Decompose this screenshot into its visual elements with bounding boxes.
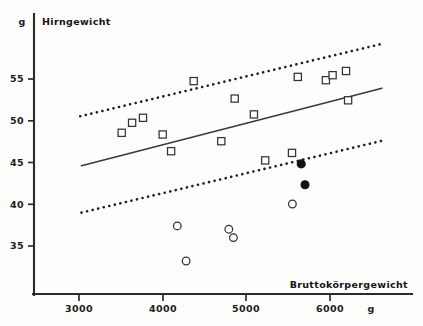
y-axis-unit-label: g bbox=[19, 16, 26, 27]
data-point-square bbox=[288, 149, 295, 156]
plot-area: 55 50 45 40 35 3000 4000 5000 6000 g g H… bbox=[0, 0, 423, 326]
data-point-circle-filled bbox=[301, 181, 309, 189]
data-point-square bbox=[262, 157, 269, 164]
data-point-circle-open bbox=[230, 234, 238, 242]
y-axis-title: Hirngewicht bbox=[42, 16, 111, 27]
y-tick-label-55: 55 bbox=[10, 73, 24, 84]
data-point-square bbox=[159, 131, 166, 138]
x-axis-title: Bruttokörpergewicht bbox=[290, 279, 408, 290]
data-point-circle-filled bbox=[297, 160, 305, 168]
x-tick-label-4000: 4000 bbox=[149, 303, 177, 314]
data-point-square bbox=[129, 119, 136, 126]
scatter-chart-figure: 55 50 45 40 35 3000 4000 5000 6000 g g H… bbox=[0, 0, 423, 326]
data-point-square bbox=[118, 129, 125, 136]
data-point-square bbox=[190, 78, 197, 85]
y-tick-label-40: 40 bbox=[10, 199, 24, 210]
data-point-circle-open bbox=[225, 225, 233, 233]
upper-limit-line bbox=[80, 44, 382, 117]
filled-circle-markers bbox=[297, 160, 309, 189]
lower-limit-line bbox=[82, 141, 383, 213]
x-tick-label-6000: 6000 bbox=[316, 303, 344, 314]
data-point-square bbox=[139, 114, 146, 121]
data-point-square bbox=[250, 111, 257, 118]
y-axis-tick-labels: 55 50 45 40 35 bbox=[10, 73, 24, 251]
data-point-square bbox=[218, 138, 225, 145]
data-point-circle-open bbox=[174, 222, 182, 230]
y-tick-label-45: 45 bbox=[10, 157, 24, 168]
data-point-square bbox=[168, 148, 175, 155]
data-point-circle-open bbox=[289, 200, 297, 208]
open-square-markers bbox=[118, 67, 352, 164]
x-tick-label-3000: 3000 bbox=[65, 303, 93, 314]
x-axis-tick-labels: 3000 4000 5000 6000 g bbox=[65, 303, 374, 314]
y-tick-label-35: 35 bbox=[10, 240, 24, 251]
data-point-square bbox=[231, 95, 238, 102]
y-tick-label-50: 50 bbox=[10, 115, 24, 126]
data-point-square bbox=[294, 73, 301, 80]
x-axis-unit-label: g bbox=[368, 303, 375, 314]
data-point-square bbox=[329, 72, 336, 79]
data-point-circle-open bbox=[182, 257, 190, 265]
open-circle-markers bbox=[174, 200, 297, 265]
x-tick-label-5000: 5000 bbox=[232, 303, 260, 314]
data-point-square bbox=[342, 67, 349, 74]
data-point-square bbox=[345, 97, 352, 104]
